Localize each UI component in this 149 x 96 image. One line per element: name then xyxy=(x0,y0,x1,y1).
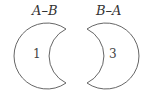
set-difference-diagram: A–B B–A 1 3 xyxy=(0,0,149,96)
b-minus-a-value: 3 xyxy=(109,48,117,60)
a-minus-b-value: 1 xyxy=(33,48,41,60)
crescent-shapes xyxy=(0,0,149,96)
b-minus-a-title: B–A xyxy=(96,4,121,17)
a-minus-b-title: A–B xyxy=(32,4,57,17)
